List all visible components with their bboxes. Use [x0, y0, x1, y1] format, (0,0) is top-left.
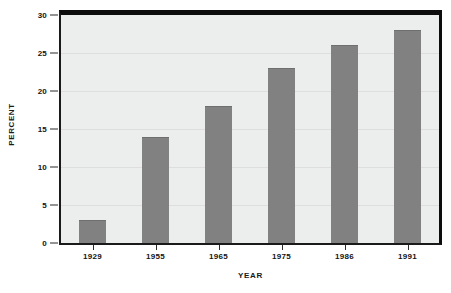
- bar-1986[interactable]: [331, 45, 357, 243]
- y-tick-mark: [50, 167, 58, 168]
- x-tick-mark: [345, 245, 346, 250]
- y-axis-tick-labels: 051015202530: [22, 0, 50, 252]
- x-tick-mark: [408, 245, 409, 250]
- gridline: [61, 167, 439, 168]
- x-tick-label-1991: 1991: [398, 252, 417, 261]
- bar-1965[interactable]: [205, 106, 231, 243]
- y-tick-label: 30: [38, 11, 47, 20]
- gridline: [61, 205, 439, 206]
- plot-inner: [61, 15, 439, 243]
- y-tick-label: 15: [38, 125, 47, 134]
- x-tick-label-1955: 1955: [146, 252, 165, 261]
- y-axis-title: PERCENT: [0, 0, 22, 248]
- y-tick-label: 25: [38, 49, 47, 58]
- bar-1975[interactable]: [268, 68, 294, 243]
- x-tick-label-1965: 1965: [209, 252, 228, 261]
- y-tick-label: 10: [38, 163, 47, 172]
- x-tick-label-1986: 1986: [335, 252, 354, 261]
- x-tick-mark: [156, 245, 157, 250]
- x-axis-tick-marks: [59, 245, 442, 252]
- bar-1991[interactable]: [394, 30, 420, 243]
- x-tick-mark: [219, 245, 220, 250]
- x-axis-title: YEAR: [59, 271, 442, 280]
- y-tick-label: 0: [42, 239, 47, 248]
- bar-1955[interactable]: [142, 137, 168, 243]
- y-tick-mark: [50, 243, 58, 244]
- y-tick-mark: [50, 91, 58, 92]
- y-tick-mark: [50, 205, 58, 206]
- y-tick-mark: [50, 129, 58, 130]
- y-axis-title-label: PERCENT: [7, 103, 16, 145]
- y-tick-mark: [50, 53, 58, 54]
- y-tick-label: 5: [42, 201, 47, 210]
- x-tick-label-1975: 1975: [272, 252, 291, 261]
- x-tick-mark: [93, 245, 94, 250]
- bar-chart: PERCENT 051015202530 1929195519651975198…: [0, 0, 451, 293]
- plot-area: [59, 10, 442, 245]
- x-tick-mark: [282, 245, 283, 250]
- bar-1929[interactable]: [79, 220, 105, 243]
- x-tick-label-1929: 1929: [83, 252, 102, 261]
- gridline: [61, 53, 439, 54]
- y-tick-mark: [50, 15, 58, 16]
- x-axis-tick-labels: 192919551965197519861991: [59, 252, 442, 268]
- gridline: [61, 129, 439, 130]
- gridline: [61, 91, 439, 92]
- y-tick-label: 20: [38, 87, 47, 96]
